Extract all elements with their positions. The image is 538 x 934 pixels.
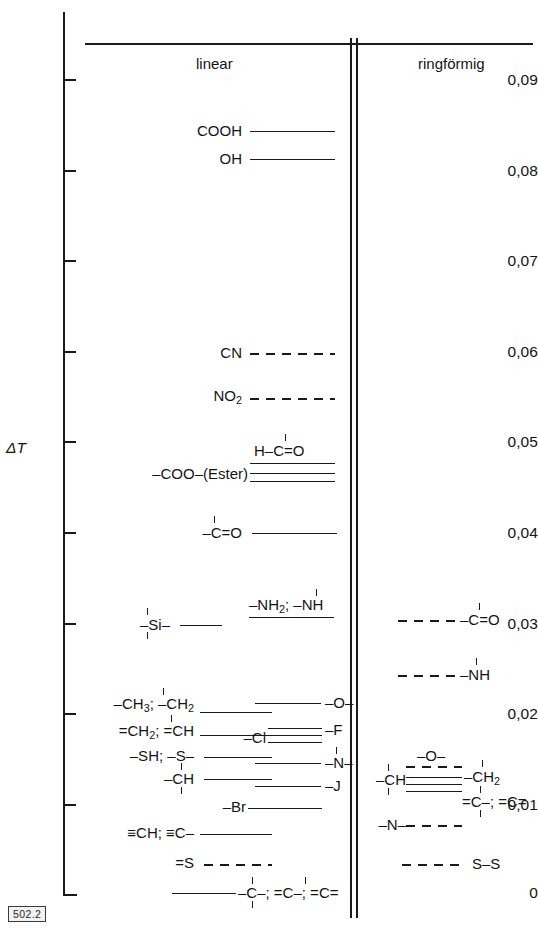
linear-line-bromine <box>248 808 322 809</box>
cyclic-line-ether <box>406 766 462 768</box>
silicon-bond-tick-top <box>147 608 148 615</box>
linear-line-amine <box>249 617 334 618</box>
y-tick-0.04 <box>65 532 76 534</box>
cyclic-label-methine: –CH <box>370 772 406 787</box>
y-tick-label-0.08: 0,08 <box>483 162 538 180</box>
cyclic-methine-bond-tick-top <box>388 764 389 771</box>
linear-label-nitrogen: –N– <box>325 755 353 770</box>
linear-line-iodine <box>255 786 321 787</box>
linear-line-thione <box>204 864 272 866</box>
amine-bond-tick <box>316 589 317 596</box>
formyl-bond-tick <box>285 434 286 441</box>
cyclic-line-nitrogen <box>406 825 462 827</box>
linear-label-iodine: –J <box>325 778 341 793</box>
linear-label-vinyl: =CH2; =CH <box>84 723 194 741</box>
cyclic-cdouble-bond-tick-bottom <box>480 810 481 817</box>
cyclic-methine-bond-tick-bottom <box>388 788 389 795</box>
cyclic-nh-bond-tick <box>476 658 477 665</box>
linear-line-cn <box>250 353 335 355</box>
cyclic-carbonyl-bond-tick <box>479 603 480 610</box>
methine-bond-tick-bottom <box>181 787 182 794</box>
linear-line-ester-upper <box>250 473 335 474</box>
vinyl-bond-tick <box>171 715 172 722</box>
linear-label-alkyne: ≡CH; ≡C– <box>84 825 194 840</box>
linear-line-ether <box>255 703 321 704</box>
y-tick-0.09 <box>65 79 76 81</box>
linear-label-ester: –COO–(Ester) <box>130 466 248 481</box>
linear-line-no2 <box>250 398 335 400</box>
y-tick-label-0.06: 0,06 <box>483 343 538 361</box>
linear-label-silicon: –Si– <box>108 617 170 632</box>
amine-nh: ; –NH <box>285 596 323 613</box>
column-divider-left <box>350 38 352 918</box>
cyclic-line-ring-2 <box>406 784 462 785</box>
column-header-cyclic: ringförmig <box>418 55 485 72</box>
y-tick-0.02 <box>65 713 76 715</box>
no2-text: NO <box>213 387 236 404</box>
cyclic-label-ether: –O– <box>417 748 445 763</box>
linear-label-thiol: –SH; –S– <box>84 748 194 763</box>
linear-line-thiol <box>204 757 272 758</box>
y-tick-0.07 <box>65 260 76 262</box>
y-tick-0.01 <box>65 804 76 806</box>
y-tick-label-0.05: 0,05 <box>483 433 538 451</box>
cyclic-label-cdouble: =C–; =C= <box>462 794 527 809</box>
header-rule <box>85 43 533 45</box>
linear-line-halogen-2 <box>268 735 322 736</box>
cyclic-ch2-text: –CH <box>464 768 494 785</box>
y-tick-label-0.09: 0,09 <box>483 71 538 89</box>
vinyl-ch2: ; =CH <box>155 722 194 739</box>
linear-label-amine: –NH2; –NH <box>249 597 323 615</box>
column-header-linear: linear <box>196 55 233 72</box>
linear-label-bromine: –Br <box>206 799 246 814</box>
y-axis-title: ΔT <box>6 439 26 457</box>
y-tick-0.05 <box>65 441 76 443</box>
cyclic-label-nitrogen: –N– <box>370 817 406 832</box>
y-tick-label-0.07: 0,07 <box>483 252 538 270</box>
silicon-bond-tick-bottom <box>147 632 148 639</box>
y-axis-base-tick <box>63 894 77 896</box>
cyclic-label-nh: –NH <box>460 667 490 682</box>
linear-line-silicon <box>180 625 222 626</box>
linear-label-no2: NO2 <box>180 388 242 406</box>
y-tick-label-0.02: 0,02 <box>483 705 538 723</box>
cyclic-label-disulfide: S–S <box>472 856 500 871</box>
y-tick-0.08 <box>65 170 76 172</box>
linear-line-cooh <box>250 131 335 132</box>
linear-label-carbonyl: –C=O <box>170 525 242 540</box>
linear-line-ester-lower <box>250 481 335 482</box>
linear-label-ether: –O– <box>325 695 353 710</box>
cyclic-label-carbonyl: –C=O <box>460 612 500 627</box>
linear-line-halogen-3 <box>268 742 322 743</box>
linear-label-carbon: –C–; =C–; =C= <box>238 885 338 900</box>
linear-line-halogen-1 <box>268 728 322 729</box>
column-divider-right <box>356 38 358 918</box>
linear-label-cooh: COOH <box>180 123 242 138</box>
linear-label-fluorine: –F <box>325 722 343 737</box>
cyclic-label-methylene: –CH2 <box>464 769 500 787</box>
methylene-bond-tick <box>163 688 164 695</box>
linear-label-methyl: –CH3; –CH2 <box>84 696 194 714</box>
linear-label-oh: OH <box>180 151 242 166</box>
carbon-bond-tick-top <box>252 877 253 884</box>
vinyl-ch: =CH <box>119 722 149 739</box>
y-tick-0.03 <box>65 623 76 625</box>
nitrogen-bond-tick <box>336 747 337 754</box>
cyclic-line-disulfide <box>402 864 460 866</box>
cyclic-cdouble-bond-tick-top <box>480 786 481 793</box>
linear-line-alkyne <box>200 834 272 835</box>
linear-label-chlorine: –Cl <box>228 730 266 745</box>
linear-line-carbon <box>172 893 236 894</box>
carbon-bond-tick-top2 <box>305 877 306 884</box>
linear-line-oh <box>250 159 335 160</box>
carbonyl-bond-tick <box>214 516 215 523</box>
y-axis-spine <box>63 12 65 896</box>
y-tick-0.06 <box>65 351 76 353</box>
cyclic-ch2-subscript: 2 <box>494 775 500 787</box>
linear-label-methine: –CH <box>130 771 194 786</box>
methylene-ch: ; –CH <box>150 695 188 712</box>
no2-subscript: 2 <box>236 394 242 406</box>
linear-line-carbonyl <box>252 533 337 534</box>
carbon-bond-tick-bottom <box>252 901 253 908</box>
figure-canvas: ΔT 0,09 0,08 0,07 0,06 0,05 0,04 0,03 0,… <box>0 0 538 934</box>
